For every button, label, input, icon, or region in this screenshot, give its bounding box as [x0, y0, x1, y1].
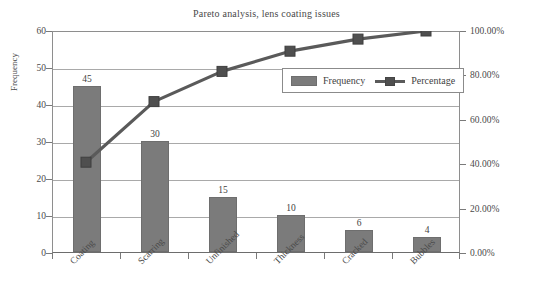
y-tick-label-left: 10: [2, 211, 46, 221]
bar-value-label: 15: [218, 185, 228, 195]
bar-slot: 6: [325, 32, 393, 252]
y-tick-mark-right: [460, 253, 466, 254]
legend-square-marker-icon: [385, 77, 395, 86]
plot-area: 4530151064: [52, 31, 460, 253]
legend-label-percentage: Percentage: [411, 75, 455, 86]
bar-slot: 45: [53, 32, 121, 252]
y-tick-mark-right: [460, 209, 466, 210]
y-tick-label-right: 0.00%: [470, 248, 495, 258]
bar-value-label: 45: [82, 74, 92, 84]
bar-slot: 10: [257, 32, 325, 252]
bar-value-label: 10: [286, 203, 296, 213]
y-axis-right: 0.00%20.00%40.00%60.00%80.00%100.00%: [460, 31, 533, 253]
y-tick-label-left: 0: [2, 248, 46, 258]
bar-value-label: 6: [357, 218, 362, 228]
legend-bar-swatch-icon: [291, 76, 317, 86]
y-tick-label-left: 40: [2, 100, 46, 110]
y-tick-mark-right: [460, 31, 466, 32]
pareto-chart: Pareto analysis, lens coating issues Fre…: [0, 0, 533, 306]
legend-entry-frequency: Frequency: [291, 75, 365, 86]
y-tick-label-left: 20: [2, 174, 46, 184]
legend-entry-percentage: Percentage: [375, 75, 455, 87]
bar-slot: 15: [189, 32, 257, 252]
y-tick-label-left: 30: [2, 137, 46, 147]
bar-scarring[interactable]: [141, 141, 169, 252]
bar-slot: 4: [393, 32, 461, 252]
y-tick-label-left: 50: [2, 63, 46, 73]
y-axis-left: 0102030405060: [0, 31, 46, 253]
chart-title: Pareto analysis, lens coating issues: [0, 8, 533, 19]
y-tick-label-right: 80.00%: [470, 70, 499, 80]
y-tick-label-left: 60: [2, 26, 46, 36]
y-tick-label-right: 60.00%: [470, 115, 499, 125]
y-tick-label-right: 40.00%: [470, 159, 499, 169]
bar-value-label: 30: [150, 129, 160, 139]
y-tick-label-right: 20.00%: [470, 204, 499, 214]
bar-coating[interactable]: [73, 86, 101, 253]
bar-slot: 30: [121, 32, 189, 252]
chart-legend: Frequency Percentage: [282, 68, 464, 93]
legend-label-frequency: Frequency: [323, 75, 365, 86]
x-axis-category-labels: CoatingScarringUnfinishedThicknessCracke…: [52, 259, 460, 306]
y-tick-mark-right: [460, 120, 466, 121]
y-tick-label-right: 100.00%: [470, 26, 504, 36]
legend-line-swatch-icon: [375, 75, 405, 87]
y-tick-mark-right: [460, 164, 466, 165]
bar-value-label: 4: [425, 225, 430, 235]
